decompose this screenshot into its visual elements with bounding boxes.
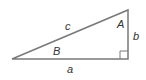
label-angle-a: A [116, 18, 124, 30]
label-angle-b: B [53, 45, 60, 57]
label-hypotenuse-c: c [65, 20, 71, 32]
label-side-a: a [67, 63, 73, 75]
label-side-b: b [133, 30, 139, 42]
right-angle-marker [120, 51, 128, 59]
triangle-diagram: c A b B a [0, 0, 146, 80]
triangle-shape [12, 10, 128, 59]
